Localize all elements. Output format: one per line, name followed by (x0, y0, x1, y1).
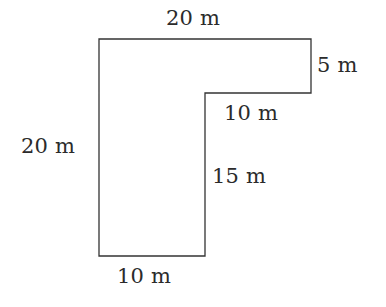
l-shape-polygon (99, 39, 311, 256)
dimension-label-bottom: 10 m (117, 266, 171, 287)
dimension-label-inner-vertical: 15 m (212, 166, 266, 187)
geometry-figure: 20 m 5 m 10 m 20 m 15 m 10 m (0, 0, 386, 307)
dimension-label-notch: 10 m (224, 103, 278, 124)
dimension-label-right: 5 m (317, 55, 358, 76)
dimension-label-top: 20 m (166, 8, 220, 29)
dimension-label-left: 20 m (21, 136, 75, 157)
